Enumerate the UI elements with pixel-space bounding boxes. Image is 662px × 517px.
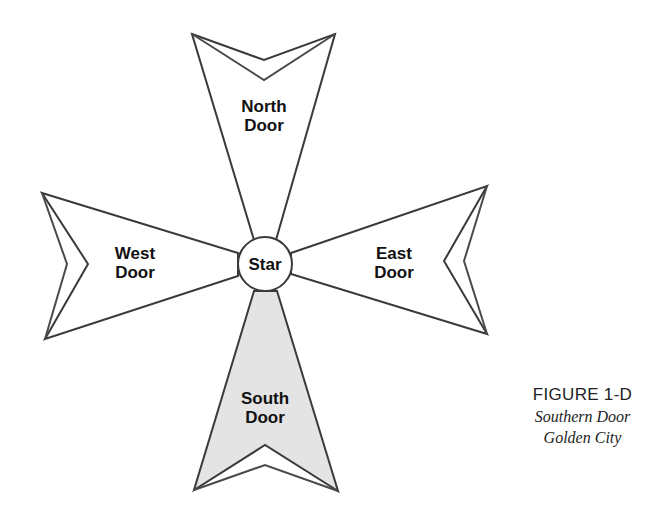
east-door-label-line1: East <box>376 244 412 263</box>
east-door-label-line2: Door <box>374 263 414 282</box>
west-door-arm: West Door <box>42 193 238 339</box>
north-door-arm: North Door <box>192 34 335 240</box>
figure-number: FIGURE 1-D <box>505 384 660 406</box>
figure-subtitle-line2: Golden City <box>505 427 660 448</box>
figure-subtitle-line1: Southern Door <box>505 406 660 427</box>
north-door-label-line1: North <box>241 97 286 116</box>
south-door-label-line2: Door <box>245 408 285 427</box>
west-door-label-line2: Door <box>115 263 155 282</box>
west-door-label-line1: West <box>115 244 156 263</box>
star-center: Star <box>238 237 292 291</box>
south-door-label-line1: South <box>241 389 289 408</box>
south-door-arm: South Door <box>194 291 338 491</box>
east-door-arm: East Door <box>291 186 487 334</box>
star-label: Star <box>248 255 281 274</box>
north-door-label-line2: Door <box>244 116 284 135</box>
figure-caption: FIGURE 1-D Southern Door Golden City <box>505 384 660 448</box>
